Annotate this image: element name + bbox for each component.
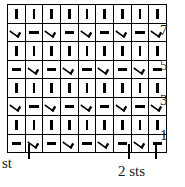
knit-stitch-bar-icon (8, 42, 25, 60)
stitch-cell-knit-stitch-bar (25, 116, 43, 135)
slip-stitch-vee-icon (79, 98, 96, 116)
knit-stitch-bar-icon (114, 5, 131, 23)
stitch-cell-purl-stitch-dash (60, 97, 78, 116)
stitch-grid-row (8, 5, 167, 24)
knit-stitch-bar-icon (61, 5, 78, 23)
stitch-cell-knit-stitch-bar (25, 79, 43, 98)
knit-stitch-bar-icon (26, 116, 43, 134)
slip-stitch-vee-icon (96, 61, 113, 79)
knit-stitch-bar-icon (132, 79, 149, 97)
stitch-cell-knit-stitch-bar (78, 116, 96, 135)
stitch-cell-slip-stitch-vee (60, 60, 78, 79)
stitch-cell-knit-stitch-bar (113, 5, 131, 24)
slip-stitch-vee-icon (26, 61, 43, 79)
stitch-cell-knit-stitch-bar (60, 42, 78, 61)
ruler-tick-1 (28, 144, 30, 159)
stitch-cell-knit-stitch-bar (60, 116, 78, 135)
stitch-cell-purl-stitch-dash (25, 23, 43, 42)
stitch-cell-slip-stitch-vee (25, 60, 43, 79)
ruler-tick-2 (128, 144, 130, 159)
purl-stitch-dash-icon (8, 61, 25, 79)
knit-stitch-bar-icon (132, 5, 149, 23)
knit-stitch-bar-icon (132, 116, 149, 134)
stitch-grid-row (8, 79, 167, 98)
knit-stitch-bar-icon (114, 79, 131, 97)
stitch-cell-slip-stitch-vee (78, 97, 96, 116)
stitch-cell-knit-stitch-bar (96, 42, 114, 61)
stitch-cell-knit-stitch-bar (131, 42, 149, 61)
stitch-cell-knit-stitch-bar (131, 116, 149, 135)
stitch-cell-knit-stitch-bar (113, 42, 131, 61)
stitch-grid-row (8, 60, 167, 79)
stitch-cell-knit-stitch-bar (96, 116, 114, 135)
stitch-cell-knit-stitch-bar (43, 42, 61, 61)
purl-stitch-dash-icon (96, 24, 113, 42)
knit-stitch-bar-icon (96, 42, 113, 60)
slip-stitch-vee-icon (132, 61, 149, 79)
stitch-cell-knit-stitch-bar (25, 5, 43, 24)
stitch-cell-knit-stitch-bar (78, 5, 96, 24)
stitch-cell-knit-stitch-bar (113, 79, 131, 98)
stitch-cell-slip-stitch-vee (8, 23, 26, 42)
knit-stitch-bar-icon (114, 116, 131, 134)
stitch-cell-slip-stitch-vee (43, 97, 61, 116)
stitch-grid-row (8, 97, 167, 116)
stitch-cell-knit-stitch-bar (8, 116, 26, 135)
ruler-tick-3 (155, 144, 157, 159)
stitch-grid-row (8, 116, 167, 135)
stitch-cell-purl-stitch-dash (131, 97, 149, 116)
stitch-cell-slip-stitch-vee (8, 97, 26, 116)
knit-stitch-bar-icon (79, 5, 96, 23)
stitch-cell-slip-stitch-vee (43, 23, 61, 42)
knit-stitch-bar-icon (8, 79, 25, 97)
purl-stitch-dash-icon (96, 98, 113, 116)
stitch-cell-knit-stitch-bar (60, 79, 78, 98)
knit-stitch-bar-icon (43, 116, 60, 134)
knit-stitch-bar-icon (132, 42, 149, 60)
slip-stitch-vee-icon (114, 98, 131, 116)
stitch-cell-knit-stitch-bar (8, 79, 26, 98)
purl-stitch-dash-icon (132, 98, 149, 116)
purl-stitch-dash-icon (132, 24, 149, 42)
stitch-cell-slip-stitch-vee (78, 23, 96, 42)
row-number-3: 3 (160, 92, 180, 110)
stitch-cell-knit-stitch-bar (131, 5, 149, 24)
stitch-cell-slip-stitch-vee (113, 23, 131, 42)
stitch-cell-purl-stitch-dash (43, 60, 61, 79)
stitch-cell-purl-stitch-dash (131, 23, 149, 42)
stitch-cell-purl-stitch-dash (113, 60, 131, 79)
slip-stitch-vee-icon (8, 98, 25, 116)
stitch-cell-knit-stitch-bar (8, 42, 26, 61)
slip-stitch-vee-icon (8, 24, 25, 42)
stitch-cell-knit-stitch-bar (43, 79, 61, 98)
knit-stitch-bar-icon (61, 42, 78, 60)
stitch-cell-purl-stitch-dash (8, 60, 26, 79)
knit-stitch-bar-icon (79, 79, 96, 97)
slip-stitch-vee-icon (114, 24, 131, 42)
knit-stitch-bar-icon (43, 42, 60, 60)
ruler-caption-right: 2 sts (118, 163, 145, 180)
slip-stitch-vee-icon (79, 24, 96, 42)
slip-stitch-vee-icon (61, 61, 78, 79)
knit-stitch-bar-icon (43, 79, 60, 97)
stitch-cell-slip-stitch-vee (131, 60, 149, 79)
stitch-cell-knit-stitch-bar (96, 79, 114, 98)
stitch-grid-row (8, 42, 167, 61)
knit-stitch-bar-icon (96, 116, 113, 134)
knit-stitch-bar-icon (114, 42, 131, 60)
stitch-cell-purl-stitch-dash (60, 23, 78, 42)
stitch-cell-knit-stitch-bar (60, 5, 78, 24)
knit-stitch-bar-icon (79, 116, 96, 134)
knit-stitch-bar-icon (26, 79, 43, 97)
ruler-caption-left: st (2, 155, 12, 172)
knit-stitch-bar-icon (61, 116, 78, 134)
stitch-cell-knit-stitch-bar (78, 42, 96, 61)
repeat-ruler (0, 144, 185, 164)
stitch-cell-slip-stitch-vee (96, 60, 114, 79)
slip-stitch-vee-icon (43, 98, 60, 116)
row-number-1: 1 (160, 127, 180, 145)
stitch-cell-knit-stitch-bar (8, 5, 26, 24)
knit-stitch-bar-icon (79, 42, 96, 60)
stitch-grid-container (7, 4, 157, 144)
purl-stitch-dash-icon (61, 98, 78, 116)
